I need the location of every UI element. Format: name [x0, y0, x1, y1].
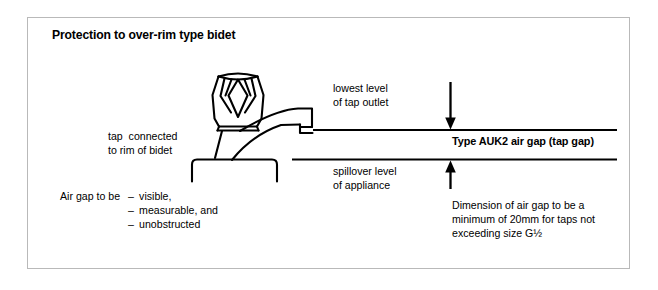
figure-title: Protection to over-rim type bidet	[52, 28, 235, 44]
air-gap-requirements-list: –visible, –measurable, and –unobstructed	[128, 190, 218, 231]
label-type-auk2-air-gap: Type AUK2 air gap (tap gap)	[452, 134, 594, 148]
tap-spout	[215, 109, 313, 161]
label-tap-connected-line1: tap connected	[108, 130, 178, 142]
label-tap-connected-line2: to rim of bidet	[108, 144, 172, 156]
air-gap-requirements-lead-in: Air gap to be	[60, 190, 128, 204]
list-item-label: unobstructed	[139, 218, 200, 232]
air-gap-requirements-block: Air gap to be –visible, –measurable, and…	[60, 190, 218, 231]
label-dimension-line2: minimum of 20mm for taps not	[452, 213, 595, 225]
list-item-label: measurable, and	[139, 204, 218, 218]
air-gap-up-arrow	[445, 161, 456, 190]
label-dimension-line1: Dimension of air gap to be a	[452, 199, 585, 211]
label-dimension-line3: exceeding size G½	[452, 227, 542, 239]
label-spillover-level-of-appliance: spillover levelof appliance	[333, 165, 397, 193]
label-air-gap-dimension-note: Dimension of air gap to be aminimum of 2…	[452, 199, 595, 240]
label-spillover-line2: of appliance	[333, 179, 390, 191]
dash-bullet-icon: –	[128, 204, 139, 218]
dash-bullet-icon: –	[128, 218, 139, 232]
label-lowest-level-of-tap-outlet: lowest levelof tap outlet	[333, 82, 388, 110]
list-item: –unobstructed	[128, 218, 218, 232]
label-tap-connected-to-rim: tap connectedto rim of bidet	[108, 130, 178, 158]
list-item-label: visible,	[139, 190, 171, 204]
bidet-rim	[192, 160, 277, 182]
label-lowest-level-line1: lowest level	[333, 82, 388, 94]
label-lowest-level-line2: of tap outlet	[333, 96, 388, 108]
air-gap-down-arrow	[445, 82, 456, 130]
list-item: –measurable, and	[128, 204, 218, 218]
dash-bullet-icon: –	[128, 190, 139, 204]
list-item: –visible,	[128, 190, 218, 204]
figure-root: Protection to over-rim type bidet lowest…	[0, 0, 658, 290]
label-spillover-line1: spillover level	[333, 165, 397, 177]
